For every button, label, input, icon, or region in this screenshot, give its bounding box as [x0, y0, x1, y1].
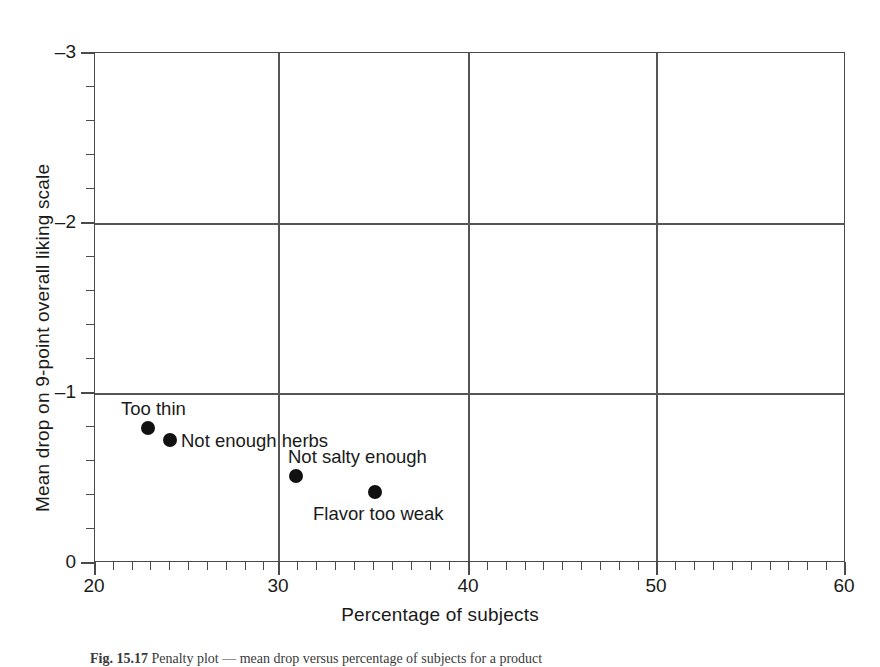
- y-minor-tick: [86, 426, 94, 427]
- y-tick-label-minus3: –3: [30, 41, 76, 63]
- data-point-too-thin: [141, 421, 155, 435]
- x-axis-title: Percentage of subjects: [0, 604, 880, 626]
- gridline-y-minus2: [95, 223, 844, 225]
- data-label-not-salty-enough: Not salty enough: [288, 446, 427, 468]
- y-major-tick-minus2: [81, 222, 94, 224]
- x-minor-tick: [826, 562, 827, 570]
- y-minor-tick: [86, 256, 94, 257]
- x-tick-label-60: 60: [814, 575, 874, 597]
- x-minor-tick: [751, 562, 752, 570]
- x-minor-tick: [600, 562, 601, 570]
- gridline-y-minus1: [95, 393, 844, 395]
- figure-caption-text: Penalty plot — mean drop versus percenta…: [151, 651, 542, 666]
- penalty-plot-figure: 20 30 40 50 60 –3 –2 –1 0 Mean drop on 9…: [0, 0, 880, 667]
- y-major-tick-0: [81, 562, 94, 564]
- x-minor-tick: [113, 562, 114, 570]
- x-minor-tick: [449, 562, 450, 570]
- x-minor-tick: [132, 562, 133, 570]
- x-minor-tick: [188, 562, 189, 570]
- data-point-not-enough-herbs: [163, 433, 177, 447]
- gridline-x-50: [656, 53, 658, 561]
- x-minor-tick: [525, 562, 526, 570]
- x-minor-tick: [770, 562, 771, 570]
- x-minor-tick: [226, 562, 227, 570]
- x-minor-tick: [581, 562, 582, 570]
- figure-caption-label: Fig. 15.17: [90, 651, 148, 666]
- y-minor-tick: [86, 154, 94, 155]
- x-minor-tick: [638, 562, 639, 570]
- y-minor-tick: [86, 324, 94, 325]
- x-tick-label-40: 40: [438, 575, 498, 597]
- x-minor-tick: [619, 562, 620, 570]
- x-minor-tick: [430, 562, 431, 570]
- x-minor-tick: [373, 562, 374, 570]
- x-minor-tick: [562, 562, 563, 570]
- plot-area: [94, 52, 845, 562]
- x-minor-tick: [487, 562, 488, 570]
- x-major-tick-40: [468, 562, 470, 575]
- x-major-tick-20: [94, 562, 96, 575]
- y-axis-title: Mean drop on 9-point overall liking scal…: [32, 164, 54, 512]
- figure-caption: Fig. 15.17 Penalty plot — mean drop vers…: [90, 650, 790, 667]
- x-minor-tick: [297, 562, 298, 570]
- x-minor-tick: [788, 562, 789, 570]
- x-minor-tick: [807, 562, 808, 570]
- x-minor-tick: [506, 562, 507, 570]
- y-minor-tick: [86, 188, 94, 189]
- y-tick-label-0: 0: [30, 551, 76, 573]
- gridline-x-30: [278, 53, 280, 561]
- x-tick-label-30: 30: [248, 575, 308, 597]
- y-minor-tick: [86, 528, 94, 529]
- x-minor-tick: [316, 562, 317, 570]
- data-point-flavor-too-weak: [368, 485, 382, 499]
- x-minor-tick: [263, 562, 264, 570]
- x-major-tick-30: [278, 562, 280, 575]
- data-label-flavor-too-weak: Flavor too weak: [313, 503, 444, 525]
- x-minor-tick: [207, 562, 208, 570]
- x-minor-tick: [392, 562, 393, 570]
- x-minor-tick: [713, 562, 714, 570]
- data-label-too-thin: Too thin: [121, 398, 186, 420]
- y-minor-tick: [86, 460, 94, 461]
- x-minor-tick: [245, 562, 246, 570]
- x-tick-label-50: 50: [626, 575, 686, 597]
- x-tick-label-20: 20: [64, 575, 124, 597]
- data-point-not-salty-enough: [289, 469, 303, 483]
- x-minor-tick: [732, 562, 733, 570]
- gridline-x-40: [468, 53, 470, 561]
- x-major-tick-50: [656, 562, 658, 575]
- x-minor-tick: [694, 562, 695, 570]
- x-minor-tick: [335, 562, 336, 570]
- y-minor-tick: [86, 494, 94, 495]
- y-minor-tick: [86, 290, 94, 291]
- y-minor-tick: [86, 120, 94, 121]
- x-major-tick-60: [844, 562, 846, 575]
- y-minor-tick: [86, 86, 94, 87]
- x-minor-tick: [411, 562, 412, 570]
- x-minor-tick: [169, 562, 170, 570]
- x-minor-tick: [354, 562, 355, 570]
- x-minor-tick: [150, 562, 151, 570]
- y-major-tick-minus1: [81, 392, 94, 394]
- x-minor-tick: [543, 562, 544, 570]
- y-major-tick-minus3: [81, 52, 94, 54]
- x-minor-tick: [675, 562, 676, 570]
- y-minor-tick: [86, 358, 94, 359]
